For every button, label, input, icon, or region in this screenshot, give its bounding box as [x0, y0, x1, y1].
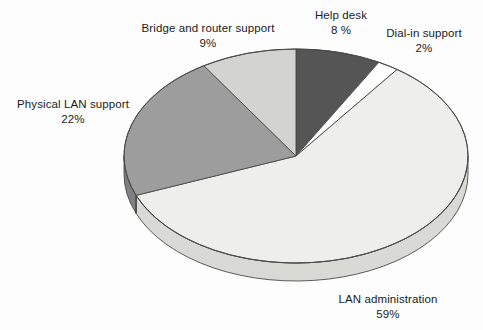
pie-slice-tops: [124, 49, 468, 263]
slice-label-dialin-percent: 2%: [372, 41, 476, 56]
slice-label-lanadmin-percent: 59%: [320, 307, 456, 322]
slice-label-lan-administration: LAN administration 59%: [320, 292, 456, 321]
slice-label-helpdesk-name: Help desk: [315, 9, 367, 21]
slice-label-dialin-name: Dial-in support: [386, 27, 462, 39]
slice-label-bridge-percent: 9%: [132, 36, 284, 51]
slice-label-lanadmin-name: LAN administration: [339, 293, 438, 305]
slice-label-bridge-name: Bridge and router support: [142, 22, 275, 34]
slice-label-physical-name: Physical LAN support: [17, 98, 129, 110]
slice-label-physical-lan-support: Physical LAN support 22%: [8, 97, 138, 126]
slice-label-dial-in-support: Dial-in support 2%: [372, 26, 476, 55]
slice-label-physical-percent: 22%: [8, 112, 138, 127]
slice-label-bridge-and-router-support: Bridge and router support 9%: [132, 21, 284, 50]
pie-chart-screenshot: Bridge and router support 9% Help desk 8…: [0, 0, 483, 330]
